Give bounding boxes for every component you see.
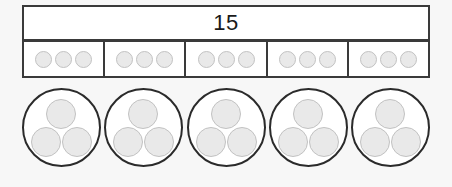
counter-dot-icon <box>309 127 339 157</box>
counter-chip-icon <box>116 51 133 68</box>
counter-dot-icon <box>31 127 61 157</box>
diagram-canvas: 15 <box>0 0 452 187</box>
counter-chip-icon <box>75 51 92 68</box>
total-value: 15 <box>213 12 238 34</box>
groups-row <box>22 88 430 183</box>
part-cell <box>266 40 349 78</box>
counter-chip-icon <box>380 51 397 68</box>
circle-group <box>351 88 430 167</box>
counter-chip-icon <box>136 51 153 68</box>
counter-dot-icon <box>360 127 390 157</box>
part-cell <box>347 40 430 78</box>
counter-chip-icon <box>35 51 52 68</box>
circle-group <box>269 88 348 167</box>
circle-group <box>22 88 101 167</box>
part-cell <box>184 40 267 78</box>
counter-chip-icon <box>218 51 235 68</box>
counter-chip-icon <box>198 51 215 68</box>
counter-chip-icon <box>156 51 173 68</box>
counter-dot-icon <box>293 99 323 129</box>
bar-model: 15 <box>22 5 430 78</box>
part-cell <box>103 40 186 78</box>
counter-dot-icon <box>128 99 158 129</box>
counter-dot-icon <box>46 99 76 129</box>
counter-dot-icon <box>391 127 421 157</box>
part-cell <box>22 40 105 78</box>
counter-chip-icon <box>360 51 377 68</box>
counter-dot-icon <box>211 99 241 129</box>
counter-dot-icon <box>375 99 405 129</box>
counter-dot-icon <box>62 127 92 157</box>
counter-chip-icon <box>55 51 72 68</box>
counter-chip-icon <box>319 51 336 68</box>
counter-chip-icon <box>238 51 255 68</box>
counter-dot-icon <box>227 127 257 157</box>
counter-dot-icon <box>144 127 174 157</box>
counter-dot-icon <box>196 127 226 157</box>
circle-group <box>187 88 266 167</box>
counter-chip-icon <box>299 51 316 68</box>
circle-group <box>104 88 183 167</box>
parts-row <box>22 40 430 78</box>
total-box: 15 <box>22 5 430 41</box>
counter-dot-icon <box>113 127 143 157</box>
counter-dot-icon <box>278 127 308 157</box>
counter-chip-icon <box>400 51 417 68</box>
counter-chip-icon <box>279 51 296 68</box>
